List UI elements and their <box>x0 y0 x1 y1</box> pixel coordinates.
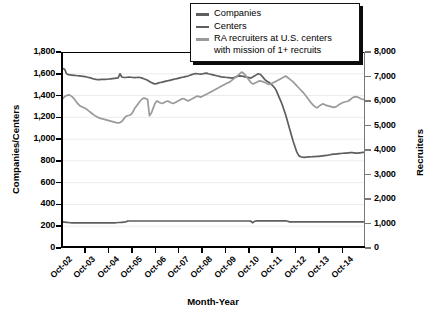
x-tick-mark <box>155 248 157 253</box>
chart-figure: Companies/Centers Recruiters 02004006008… <box>0 0 429 312</box>
y-tick-right: 3,000 <box>374 169 396 179</box>
legend-item: Companies <box>196 8 353 20</box>
y-tick-left: 800 <box>8 155 55 165</box>
legend-swatch <box>196 13 209 16</box>
y-tick-left: 0 <box>8 242 55 252</box>
x-tick-mark <box>84 248 86 253</box>
y-tick-mark-right <box>365 125 371 127</box>
legend-swatch <box>196 26 209 29</box>
series-line <box>61 68 365 157</box>
x-tick-mark <box>178 248 180 253</box>
y-tick-mark-right <box>365 100 371 102</box>
y-axis-right-title: Recruiters <box>414 129 425 176</box>
plot-border-bottom <box>61 246 365 248</box>
legend-label: RA recruiters at U.S. centers with missi… <box>214 33 332 56</box>
y-tick-mark-right <box>365 149 371 151</box>
x-tick-mark <box>201 248 203 253</box>
y-tick-mark-right <box>365 76 371 78</box>
y-tick-right: 5,000 <box>374 120 396 130</box>
y-tick-left: 1,000 <box>8 133 55 143</box>
legend-label: Centers <box>214 21 247 33</box>
y-tick-left: 600 <box>8 177 55 187</box>
y-tick-right: 7,000 <box>374 71 396 81</box>
x-tick-mark <box>131 248 133 253</box>
plot-border-left <box>61 52 63 248</box>
plot-border-right <box>364 52 366 248</box>
y-tick-mark-right <box>365 247 371 249</box>
y-tick-right: 1,000 <box>374 218 396 228</box>
y-tick-left: 400 <box>8 198 55 208</box>
y-tick-right: 8,000 <box>374 46 396 56</box>
y-tick-right: 2,000 <box>374 193 396 203</box>
y-tick-left: 200 <box>8 220 55 230</box>
x-tick-mark <box>108 248 110 253</box>
y-tick-left: 1,200 <box>8 111 55 121</box>
series-line <box>61 221 365 223</box>
x-tick-mark <box>342 248 344 253</box>
y-tick-right: 0 <box>374 242 379 252</box>
y-tick-right: 6,000 <box>374 95 396 105</box>
x-tick-mark <box>248 248 250 253</box>
chart-legend: CompaniesCentersRA recruiters at U.S. ce… <box>190 3 360 62</box>
y-tick-mark-right <box>365 51 371 53</box>
x-tick-mark <box>225 248 227 253</box>
legend-item: Centers <box>196 21 353 33</box>
x-tick-mark <box>295 248 297 253</box>
plot-lines <box>61 52 365 248</box>
y-tick-right: 4,000 <box>374 144 396 154</box>
legend-item: RA recruiters at U.S. centers with missi… <box>196 33 353 56</box>
x-tick-mark <box>318 248 320 253</box>
x-axis-title: Month-Year <box>61 296 365 307</box>
y-tick-mark-right <box>365 223 371 225</box>
legend-swatch <box>196 38 209 41</box>
y-tick-left: 1,400 <box>8 90 55 100</box>
plot-area <box>61 52 365 248</box>
legend-label: Companies <box>214 8 261 20</box>
y-tick-mark-right <box>365 198 371 200</box>
x-tick-mark <box>271 248 273 253</box>
y-tick-mark-right <box>365 174 371 176</box>
y-tick-left: 1,600 <box>8 68 55 78</box>
y-tick-left: 1,800 <box>8 46 55 56</box>
